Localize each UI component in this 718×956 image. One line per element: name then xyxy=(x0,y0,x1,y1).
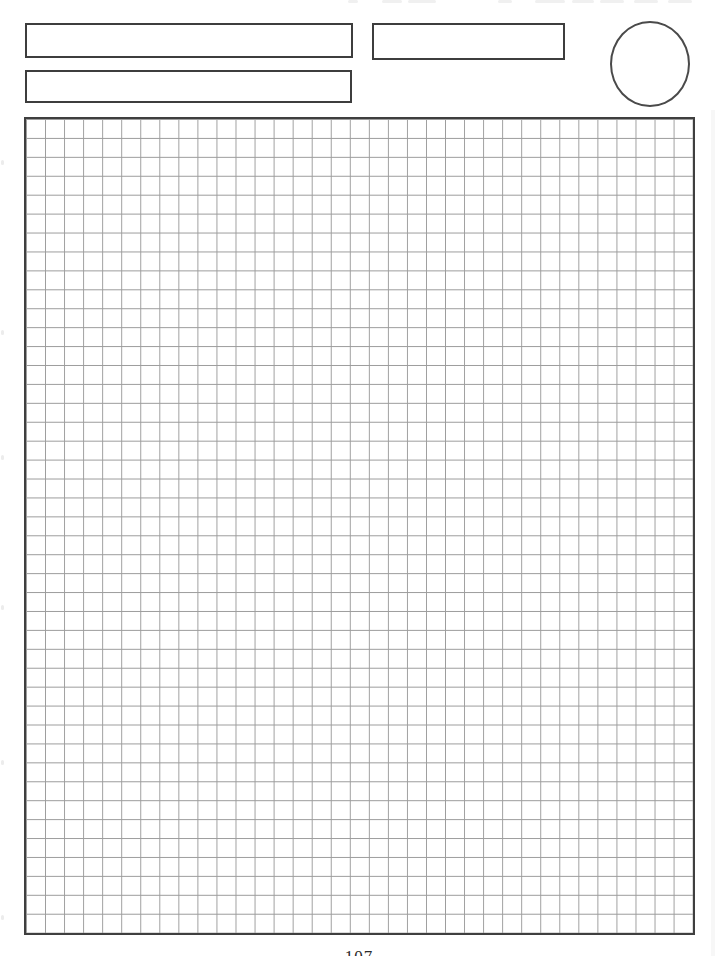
scan-artifact xyxy=(1,605,4,610)
bleed-through-mark xyxy=(408,0,436,3)
header-field-top[interactable] xyxy=(25,23,353,58)
scan-artifact xyxy=(1,915,4,920)
scan-artifact xyxy=(1,760,4,765)
scan-artifact xyxy=(1,330,4,335)
grid-paper xyxy=(24,117,695,935)
scan-artifact xyxy=(1,160,4,165)
notebook-page: 107 xyxy=(0,0,718,956)
bleed-through-mark xyxy=(382,0,402,3)
scan-artifact-right-edge xyxy=(711,110,715,956)
scan-artifact xyxy=(1,455,4,460)
bleed-through-mark xyxy=(634,0,658,3)
bleed-through-mark xyxy=(572,0,594,3)
bleed-through-mark xyxy=(600,0,624,3)
header-field-right[interactable] xyxy=(372,23,565,60)
bleed-through-mark xyxy=(668,0,692,3)
page-number: 107 xyxy=(0,948,718,956)
bleed-through-mark xyxy=(348,0,358,3)
header-field-bottom[interactable] xyxy=(25,70,352,103)
circle-field[interactable] xyxy=(610,21,690,107)
bleed-through-mark xyxy=(535,0,565,3)
bleed-through-mark xyxy=(498,0,512,3)
